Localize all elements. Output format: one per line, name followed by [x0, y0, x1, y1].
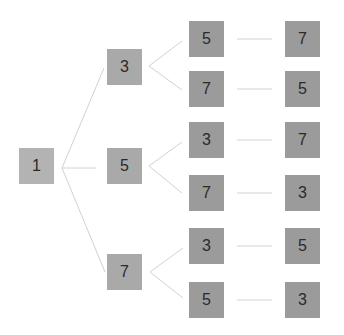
node-label: 5	[202, 291, 211, 309]
edge-7-to-3	[150, 248, 183, 272]
level3-node-1: 7	[285, 21, 320, 57]
node-label: 7	[202, 80, 211, 98]
level3-node-6: 3	[285, 282, 320, 318]
level3-node-4: 3	[285, 175, 320, 211]
node-label: 7	[298, 30, 307, 48]
level2-node-3: 3	[189, 122, 224, 158]
edge-root-to-7	[62, 168, 105, 272]
node-label: 5	[298, 237, 307, 255]
level2-node-6: 5	[189, 282, 224, 318]
node-label: 5	[298, 80, 307, 98]
node-label: 3	[298, 291, 307, 309]
tree-diagram: 1 3 5 7 5 7 3 7 3 5 7 5 7 3 5 3	[0, 0, 344, 335]
node-label: 3	[120, 58, 129, 76]
level2-node-1: 5	[189, 21, 224, 57]
edge-5-to-7	[149, 166, 182, 193]
level3-node-2: 5	[285, 71, 320, 107]
level2-node-4: 7	[189, 175, 224, 211]
level1-node-3: 7	[107, 254, 142, 290]
level2-node-2: 7	[189, 71, 224, 107]
level2-node-5: 3	[189, 228, 224, 264]
edge-3-to-7	[149, 66, 182, 90]
node-label: 7	[120, 263, 129, 281]
node-label: 7	[202, 184, 211, 202]
level3-node-3: 7	[285, 122, 320, 158]
level3-node-5: 5	[285, 228, 320, 264]
node-label: 5	[202, 30, 211, 48]
level1-node-2: 5	[107, 148, 142, 184]
edge-root-to-3	[62, 68, 104, 168]
node-label: 7	[298, 131, 307, 149]
edge-7-to-5	[150, 272, 183, 298]
node-label: 3	[202, 131, 211, 149]
edge-3-to-5	[149, 41, 182, 66]
node-label: 3	[202, 237, 211, 255]
node-label: 1	[32, 157, 41, 175]
level1-node-1: 3	[107, 49, 142, 85]
edge-5-to-3	[149, 142, 182, 166]
node-label: 3	[298, 184, 307, 202]
node-label: 5	[120, 157, 129, 175]
root-node: 1	[19, 148, 54, 184]
